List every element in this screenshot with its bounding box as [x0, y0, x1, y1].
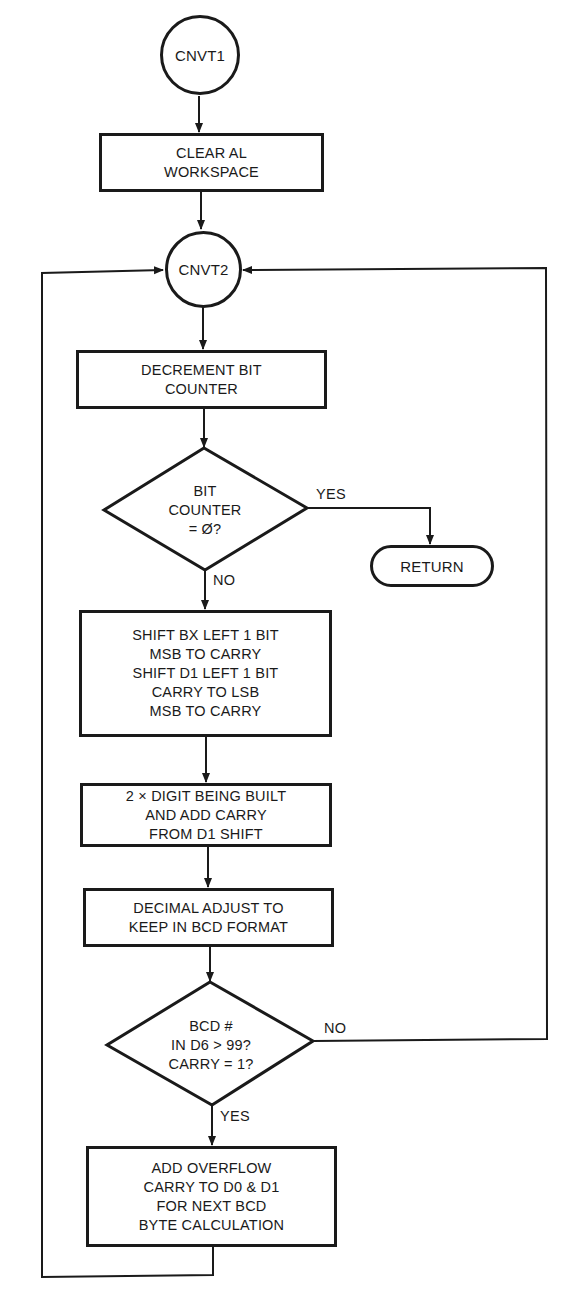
connector-cnvt1: CNVT1 — [160, 15, 240, 95]
decision-bit-counter: BIT COUNTER = Ø? — [140, 470, 270, 550]
edge-decision-return — [307, 508, 430, 544]
label-bcd-yes: YES — [220, 1108, 250, 1124]
process-decrement: DECREMENT BIT COUNTER — [76, 350, 327, 409]
process-add-overflow-label: ADD OVERFLOW CARRY TO D0 & D1 FOR NEXT B… — [139, 1159, 285, 1235]
connector-cnvt1-label: CNVT1 — [175, 46, 225, 65]
process-double-digit: 2 × DIGIT BEING BUILT AND ADD CARRY FROM… — [80, 783, 332, 847]
connector-cnvt2: CNVT2 — [165, 231, 242, 308]
process-shift-label: SHIFT BX LEFT 1 BIT MSB TO CARRY SHIFT D… — [132, 626, 279, 721]
connector-cnvt2-label: CNVT2 — [178, 260, 228, 279]
label-bcd-no: NO — [324, 1020, 346, 1036]
process-clear-al-label: CLEAR AL WORKSPACE — [164, 144, 259, 182]
decision-bit-counter-label: BIT COUNTER = Ø? — [168, 482, 241, 539]
process-decrement-label: DECREMENT BIT COUNTER — [141, 361, 262, 399]
terminal-return: RETURN — [370, 545, 494, 587]
process-decimal-adjust-label: DECIMAL ADJUST TO KEEP IN BCD FORMAT — [129, 899, 288, 937]
terminal-return-label: RETURN — [400, 557, 464, 576]
decision-bcd: BCD # IN D6 > 99? CARRY = 1? — [140, 1005, 282, 1085]
label-bit-counter-yes: YES — [316, 486, 346, 502]
process-add-overflow: ADD OVERFLOW CARRY TO D0 & D1 FOR NEXT B… — [86, 1146, 337, 1247]
process-shift: SHIFT BX LEFT 1 BIT MSB TO CARRY SHIFT D… — [79, 610, 332, 737]
process-double-digit-label: 2 × DIGIT BEING BUILT AND ADD CARRY FROM… — [126, 787, 286, 844]
process-decimal-adjust: DECIMAL ADJUST TO KEEP IN BCD FORMAT — [83, 888, 334, 947]
label-bit-counter-no: NO — [213, 572, 235, 588]
decision-bcd-label: BCD # IN D6 > 99? CARRY = 1? — [169, 1017, 254, 1074]
process-clear-al: CLEAR AL WORKSPACE — [99, 133, 324, 192]
edge-overflow-loop — [42, 270, 213, 1277]
